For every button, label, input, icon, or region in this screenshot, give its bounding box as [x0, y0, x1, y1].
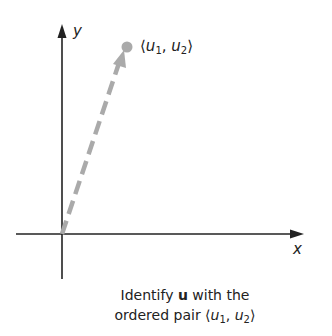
caption-text: with the: [188, 287, 250, 303]
caption-text: Identify: [121, 287, 178, 303]
x-axis-label: x: [293, 240, 302, 258]
u2-symbol: u: [235, 307, 244, 323]
bold-vector-u: u: [178, 287, 188, 303]
y-axis-arrowhead: [58, 24, 67, 38]
figure-caption: Identify u with the ordered pair ⟨u1, u2…: [0, 285, 332, 330]
vector-arrowhead: [113, 50, 126, 68]
u1-symbol: u: [146, 37, 156, 55]
vector-tip-point: [122, 42, 133, 53]
u2-symbol: u: [171, 37, 181, 55]
vector-u: [62, 63, 119, 234]
y-axis-label: y: [73, 22, 82, 40]
comma: ,: [162, 37, 172, 55]
comma: ,: [226, 307, 235, 323]
caption-text: ordered pair: [115, 307, 206, 323]
x-axis-arrowhead: [290, 230, 304, 239]
caption-line-2: ordered pair ⟨u1, u2⟩: [38, 305, 332, 330]
caption-line-1: Identify u with the: [38, 285, 332, 305]
vector-tip-label: ⟨u1, u2⟩: [140, 37, 193, 56]
close-angle: ⟩: [187, 37, 193, 55]
close-angle: ⟩: [250, 307, 255, 323]
